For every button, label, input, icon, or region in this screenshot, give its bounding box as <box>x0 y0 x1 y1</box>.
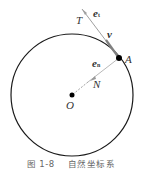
figure-caption: 图 1-8 自然坐标系 <box>0 157 142 169</box>
caption-title: 自然坐标系 <box>68 159 116 169</box>
normal-dashed-line <box>72 82 88 95</box>
velocity-vector <box>106 40 119 58</box>
label-a: A <box>125 54 132 65</box>
point-o <box>70 93 75 98</box>
label-v: v <box>107 29 112 40</box>
point-a <box>116 55 122 61</box>
caption-number: 图 1-8 <box>27 159 55 169</box>
label-et: et <box>93 8 100 19</box>
label-en-sub: n <box>97 62 100 68</box>
label-o: O <box>66 100 74 111</box>
label-n: N <box>93 79 100 90</box>
label-et-sub: t <box>98 12 100 18</box>
natural-coordinate-diagram <box>0 0 142 171</box>
label-t: T <box>76 15 82 26</box>
label-en: en <box>92 58 100 69</box>
